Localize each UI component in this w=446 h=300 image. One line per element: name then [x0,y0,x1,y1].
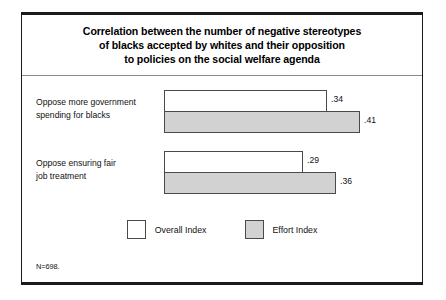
title-line-1: Correlation between the number of negati… [36,24,408,38]
white-swatch-icon [127,220,146,239]
figure-frame: Correlation between the number of negati… [21,12,423,285]
bar-value-label: .29 [307,155,319,165]
bar-value-label: .34 [331,94,343,104]
chart-legend: Overall Index Effort Index [22,220,422,239]
bar-value-label: .36 [340,176,352,186]
legend-label: Effort Index [273,225,318,235]
plot-area: Oppose more government spending for blac… [22,76,422,279]
bar-overall-index [164,151,303,173]
bar-effort-index [164,172,336,194]
legend-item-effort-index: Effort Index [245,220,318,239]
bar-group: Oppose ensuring fair job treatment .29 .… [22,151,422,197]
bar-effort-index [164,111,360,133]
legend-label: Overall Index [155,225,207,235]
gray-swatch-icon [245,220,264,239]
category-label-line: Oppose more government [36,96,164,109]
bar-value-label: .41 [364,115,376,125]
legend-item-overall-index: Overall Index [127,220,207,239]
bars-wrap: .29 .36 [164,151,410,197]
category-label-line: Oppose ensuring fair [36,157,164,170]
figure-title: Correlation between the number of negati… [22,15,422,76]
title-line-2: of blacks accepted by whites and their o… [36,38,408,52]
category-label-line: spending for blacks [36,109,164,122]
bar-overall-index [164,90,327,112]
bars-wrap: .34 .41 [164,90,410,136]
category-label: Oppose more government spending for blac… [36,96,164,121]
category-label-line: job treatment [36,170,164,183]
category-label: Oppose ensuring fair job treatment [36,157,164,182]
title-line-3: to policies on the social welfare agenda [36,52,408,66]
sample-size-footnote: N=698. [36,262,59,271]
bar-group: Oppose more government spending for blac… [22,90,422,136]
